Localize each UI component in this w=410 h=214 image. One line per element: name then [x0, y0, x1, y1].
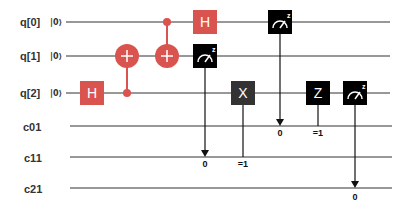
svg-text:H: H [87, 85, 97, 101]
classical-label-c01: c01 [23, 121, 41, 133]
qubit-init-q0: |0⟩ [50, 18, 62, 27]
control-dot [123, 89, 131, 97]
measure-gate-q1[interactable]: z 0 [193, 44, 217, 169]
measure-result: 0 [202, 159, 207, 169]
svg-text:X: X [238, 85, 248, 101]
svg-text:H: H [200, 14, 210, 30]
quantum-circuit: q[0] q[1] q[2] |0⟩ |0⟩ |0⟩ c01 c11 c21 H [0, 0, 410, 214]
classical-label-c11: c11 [24, 152, 42, 164]
measure-gate-q0[interactable]: z 0 [268, 10, 292, 138]
condition-label: =1 [313, 128, 323, 138]
h-gate-q0[interactable]: H [193, 10, 217, 34]
measure-result: 0 [352, 192, 357, 202]
cnot-gate-1[interactable] [115, 44, 139, 97]
condition-label: =1 [238, 159, 248, 169]
qubit-init-q2: |0⟩ [50, 89, 62, 98]
svg-text:Z: Z [314, 85, 323, 101]
z-gate-q2[interactable]: Z =1 [306, 81, 330, 138]
measure-gate-q2[interactable]: z 0 [343, 81, 367, 202]
control-dot [163, 18, 171, 26]
qubit-label-q2: q[2] [20, 87, 41, 99]
qubit-label-q0: q[0] [20, 16, 41, 28]
classical-label-c21: c21 [24, 183, 42, 195]
h-gate-q2[interactable]: H [80, 81, 104, 105]
svg-text:z: z [362, 83, 366, 90]
cnot-gate-2[interactable] [155, 18, 179, 68]
qubit-init-q1: |0⟩ [50, 52, 62, 61]
measure-result: 0 [277, 128, 282, 138]
svg-text:z: z [212, 46, 216, 53]
qubit-label-q1: q[1] [20, 50, 41, 62]
svg-text:z: z [287, 12, 291, 19]
x-gate-q2[interactable]: X =1 [231, 81, 255, 169]
